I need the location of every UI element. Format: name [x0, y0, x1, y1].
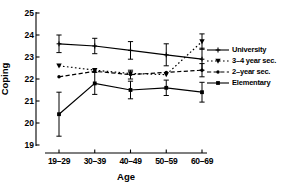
- legend-marker-2-year-sec: [206, 67, 230, 77]
- legend-label: University: [232, 45, 266, 54]
- series-elementary: [56, 72, 204, 136]
- y-tick-label: 21: [14, 96, 34, 106]
- y-tick-label: 23: [14, 52, 34, 62]
- legend-item-2-year-sec: 2–year sec.: [206, 66, 276, 77]
- x-tick-label: 40–49: [113, 156, 149, 166]
- y-tick-label: 20: [14, 118, 34, 128]
- y-tick-label: 19: [14, 140, 34, 150]
- y-axis: [36, 12, 40, 146]
- legend-marker-university: [206, 45, 230, 55]
- y-tick-label: 24: [14, 30, 34, 40]
- x-axis-title: Age: [96, 171, 156, 182]
- x-axis: [45, 150, 207, 154]
- legend-marker-3-4-year-sec: [206, 56, 230, 66]
- legend-item-3-4-year-sec: 3–4 year sec.: [206, 55, 276, 66]
- y-axis-title: Coping: [0, 49, 11, 109]
- y-tick-label: 25: [14, 8, 34, 18]
- legend-label: Elementary: [232, 78, 270, 87]
- legend-item-elementary: Elementary: [206, 77, 276, 88]
- x-tick-label: 50–59: [148, 156, 184, 166]
- legend-marker-elementary: [206, 78, 230, 88]
- legend-label: 2–year sec.: [232, 67, 270, 76]
- series-university: [56, 35, 204, 70]
- x-tick-label: 60–69: [184, 156, 220, 166]
- series-2-year-sec: [57, 64, 204, 79]
- legend-label: 3–4 year sec.: [232, 56, 276, 65]
- legend-item-university: University: [206, 44, 276, 55]
- coping-by-age-chart: Coping 25 24 23 22 21 20 19 19–29 30–39 …: [0, 0, 285, 192]
- y-tick-label: 22: [14, 74, 34, 84]
- x-tick-label: 30–39: [77, 156, 113, 166]
- x-tick-label: 19–29: [41, 156, 77, 166]
- legend: University 3–4 year sec. 2–year sec. Ele…: [206, 44, 276, 88]
